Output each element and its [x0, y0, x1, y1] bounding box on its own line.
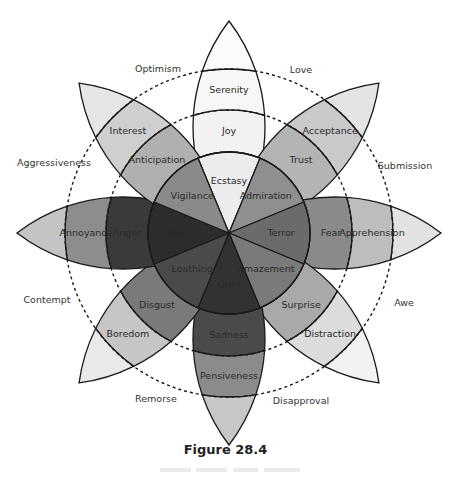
- emotion-label-pensiveness: Pensiveness: [200, 370, 258, 381]
- emotion-label-acceptance: Acceptance: [302, 125, 357, 136]
- dyad-label-contempt: Contempt: [23, 294, 70, 305]
- emotion-label-admiration: Admiration: [240, 190, 292, 201]
- dyad-label-awe: Awe: [394, 297, 414, 308]
- dyad-label-aggressiveness: Aggressiveness: [17, 157, 91, 168]
- dyad-label-remorse: Remorse: [135, 393, 177, 404]
- band-tip: [202, 21, 256, 71]
- dyad-label-love: Love: [290, 64, 313, 75]
- emotion-label-anticipation: Anticipation: [129, 154, 186, 165]
- dyad-label-optimism: Optimism: [135, 63, 181, 74]
- emotion-label-surprise: Surprise: [281, 299, 320, 310]
- emotion-label-apprehension: Apprehension: [339, 227, 404, 238]
- emotion-label-disgust: Disgust: [139, 299, 175, 310]
- figure-caption-illegible: [160, 468, 300, 472]
- emotion-label-vigilance: Vigilance: [171, 190, 214, 201]
- plutchik-wheel: EcstasyJoySerenityAdmirationTrustAccepta…: [0, 0, 451, 480]
- emotion-label-trust: Trust: [289, 154, 313, 165]
- emotion-label-terror: Terror: [266, 227, 294, 238]
- figure-title: Figure 28.4: [0, 442, 451, 457]
- emotion-label-ecstasy: Ecstasy: [211, 175, 248, 186]
- band-tip: [202, 395, 256, 445]
- emotion-label-annoyance: Annoyance: [60, 227, 113, 238]
- dyad-label-submission: Submission: [378, 160, 432, 171]
- emotion-label-amazement: Amazement: [237, 263, 295, 274]
- emotion-label-fear: Fear: [321, 227, 342, 238]
- dyad-label-disapproval: Disapproval: [273, 395, 329, 406]
- emotion-label-loathing: Loathing: [172, 263, 213, 274]
- emotion-label-anger: Anger: [113, 227, 141, 238]
- emotion-label-serenity: Serenity: [209, 84, 249, 95]
- emotion-label-interest: Interest: [110, 125, 147, 136]
- emotion-label-sadness: Sadness: [209, 329, 249, 340]
- emotion-label-distraction: Distraction: [304, 328, 356, 339]
- emotion-label-boredom: Boredom: [106, 328, 149, 339]
- emotion-label-joy: Joy: [221, 125, 237, 136]
- emotion-label-grief: Grief: [217, 279, 241, 290]
- emotion-label-rage: Rage: [165, 227, 189, 238]
